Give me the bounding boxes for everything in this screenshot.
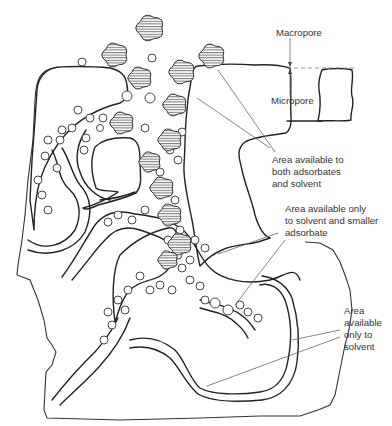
small-molecule-circle	[156, 281, 164, 289]
small-molecule-circle	[53, 164, 61, 172]
small-molecule-circle	[100, 336, 108, 344]
small-molecule-circle	[186, 276, 194, 284]
small-molecule-circle	[201, 296, 209, 304]
large-molecule-blob	[136, 15, 163, 41]
macropore-arrowhead	[288, 62, 292, 67]
small-molecule-circle	[124, 286, 132, 294]
small-molecule-circle	[254, 314, 262, 322]
label-solvent-only-line4: solvent	[344, 341, 375, 352]
small-molecule-circle	[82, 134, 90, 142]
label-macropore: Macropore	[276, 27, 322, 38]
small-molecule-circle	[38, 191, 46, 199]
small-molecule-circle	[196, 282, 204, 290]
large-molecule-blob	[110, 112, 133, 134]
large-molecule-blob	[163, 94, 186, 116]
small-molecule-circle	[68, 124, 76, 132]
small-molecule-circle	[201, 244, 209, 252]
label-solvent-smaller-line3: adsorbate	[285, 227, 328, 238]
label-both-line2: both adsorbates	[272, 166, 341, 177]
label-solvent-only-line3: only to	[344, 329, 372, 340]
large-molecule-blob	[158, 204, 181, 226]
small-molecule-circle	[80, 146, 88, 154]
small-molecule-circle	[141, 206, 149, 214]
small-molecule-circle	[191, 236, 199, 244]
small-molecule-circle	[58, 126, 66, 134]
large-molecule-blob	[102, 43, 127, 67]
small-molecule-circle	[104, 218, 112, 226]
small-molecule-circle	[244, 308, 252, 316]
pore-channel-solvent-inner	[130, 276, 298, 401]
small-molecule-circle	[41, 152, 49, 160]
small-molecule-circle	[78, 58, 86, 66]
small-molecule-circle	[122, 91, 132, 101]
small-molecule-circle	[114, 211, 122, 219]
label-both-line3: and solvent	[272, 178, 321, 189]
small-molecule-circle	[121, 306, 129, 314]
small-molecule-circle	[178, 264, 186, 272]
small-molecule-circle	[141, 124, 149, 132]
small-molecule-circle	[114, 296, 122, 304]
large-molecule-blob	[158, 129, 181, 151]
label-solvent-only-line2: available	[344, 317, 382, 328]
small-molecule-circle	[34, 176, 42, 184]
pore-channel-lower-b	[60, 318, 130, 405]
small-molecule-circle	[210, 298, 220, 308]
label-micropore: Micropore	[271, 95, 314, 106]
large-molecule-blob	[150, 177, 173, 199]
small-molecule-circle	[136, 272, 144, 280]
large-molecule-blob	[128, 67, 151, 89]
small-molecule-circle	[104, 308, 112, 316]
small-molecule-circle	[44, 136, 52, 144]
small-molecule-circle	[223, 305, 233, 315]
solid-grain-micropore-block	[318, 69, 353, 122]
small-molecule-circle	[148, 54, 156, 62]
small-molecule-circle	[171, 196, 179, 204]
small-molecule-circle	[56, 136, 64, 144]
pore-channel-lower-a	[52, 318, 118, 400]
label-solvent-smaller-line2: to solvent and smaller	[285, 215, 379, 226]
small-molecule-circle	[128, 216, 136, 224]
large-molecule-blob	[169, 60, 194, 84]
small-molecule-circle	[74, 106, 82, 114]
small-molecule-circle	[44, 206, 52, 214]
leader-solvent-smaller-2	[235, 240, 285, 305]
small-molecule-circle	[97, 125, 104, 132]
pore-structure-diagram: Macropore Micropore Area available to bo…	[0, 0, 392, 426]
small-molecule-circle	[99, 114, 107, 122]
large-molecule-blob	[139, 152, 160, 172]
large-molecule-blob	[199, 44, 224, 68]
label-solvent-only-line1: Area	[344, 305, 365, 316]
label-both-line1: Area available to	[272, 154, 343, 165]
small-molecule-circle	[186, 256, 194, 264]
leader-solvent-only-2	[207, 337, 340, 386]
small-molecule-circle	[145, 93, 155, 103]
leader-solvent-only-1	[292, 330, 340, 340]
small-molecule-circle	[168, 286, 176, 294]
small-molecule-circle	[86, 114, 94, 122]
small-molecule-circle	[146, 286, 154, 294]
small-molecule-circle	[174, 156, 182, 164]
label-solvent-smaller-line1: Area available only	[285, 203, 366, 214]
small-molecule-circle	[108, 321, 116, 329]
